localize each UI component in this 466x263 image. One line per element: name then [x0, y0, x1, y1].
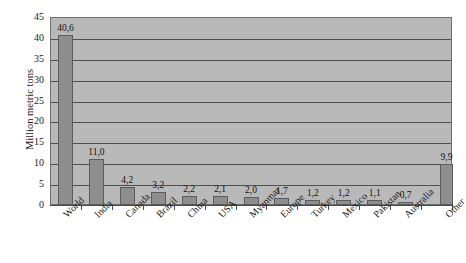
y-tick-label-25: 25 [24, 96, 44, 106]
gridline [51, 81, 451, 82]
y-tick-label-0: 0 [24, 200, 44, 210]
y-tick-label-40: 40 [24, 33, 44, 43]
gridline [51, 122, 451, 123]
bar-value-china: 2,2 [173, 185, 205, 195]
bar-india[interactable] [89, 159, 104, 205]
bar-value-canada: 4,2 [111, 176, 143, 186]
y-tick-label-15: 15 [24, 137, 44, 147]
bar-value-india: 11,0 [80, 148, 112, 158]
gridline [51, 60, 451, 61]
bar-value-usa: 2,1 [204, 185, 236, 195]
bar-value-world: 40,6 [49, 24, 81, 34]
y-tick-label-10: 10 [24, 158, 44, 168]
y-tick-label-45: 45 [24, 12, 44, 22]
bar-other[interactable] [440, 164, 453, 205]
bar-value-other: 9,9 [431, 153, 463, 163]
gridline [51, 164, 451, 165]
y-tick-label-20: 20 [24, 116, 44, 126]
plot-area [50, 17, 452, 205]
y-tick-label-5: 5 [24, 179, 44, 189]
y-axis-tick-labels: 051015202530354045 [22, 0, 44, 263]
gridline [51, 143, 451, 144]
gridline [51, 39, 451, 40]
y-tick-label-30: 30 [24, 75, 44, 85]
gridline [51, 102, 451, 103]
bar-value-myanmar: 2,0 [235, 186, 267, 196]
bar-world[interactable] [58, 35, 73, 205]
y-tick-label-35: 35 [24, 54, 44, 64]
bar-value-brazil: 3,2 [142, 181, 174, 191]
